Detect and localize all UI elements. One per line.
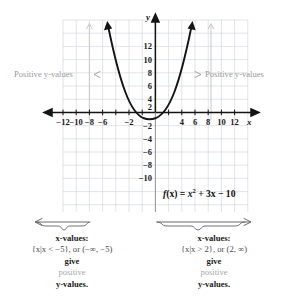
- y-tick-label--10: −10: [139, 174, 152, 183]
- annotation-positive-y-right: Positive y-values: [205, 70, 264, 79]
- curve-left-arrowhead: [104, 21, 112, 30]
- x-tick-label-10: 10: [217, 118, 226, 127]
- equation-rest: + 3x − 10: [196, 188, 236, 199]
- quadratic-sign-chart-figure: −12 −10 −8 −6 −2 4 6 8 10 12 12 10 8 6 4…: [0, 0, 286, 307]
- caption-left-line5: y-values.: [4, 279, 140, 290]
- y-tick-label-6: 6: [148, 82, 152, 91]
- y-tick-label--2: −2: [143, 121, 152, 130]
- annotation-left-text: Positive y-values: [14, 69, 73, 79]
- curve-right-arrowhead: [188, 21, 196, 30]
- function-equation-label: f(x) = x2 + 3x − 10: [163, 188, 235, 199]
- y-tick-label-10: 10: [144, 55, 153, 64]
- y-tick-label-12: 12: [144, 42, 153, 51]
- x-axis-left-arrowhead: [44, 109, 52, 116]
- caption-right-line2: {x|x > 2}, or (2, ∞): [146, 244, 282, 255]
- right-pointer-arrow: [195, 72, 201, 78]
- x-tick-label--8: −8: [85, 118, 94, 127]
- x-tick-label-12: 12: [230, 118, 239, 127]
- caption-left-line2: {x|x < −5}, or (−∞, −5): [4, 244, 140, 255]
- caption-right-line4: positive: [146, 267, 282, 278]
- x-tick-label--12: −12: [56, 118, 69, 127]
- x-axis-right-arrowhead: [251, 109, 259, 116]
- caption-left-line3: give: [4, 256, 140, 267]
- y-tick-label--8: −8: [143, 161, 152, 170]
- x-tick-label-6: 6: [193, 118, 197, 127]
- left-curly-brace: [36, 222, 90, 230]
- y-tick-label-2: 2: [148, 102, 152, 111]
- annotation-right-text: Positive y-values: [205, 69, 264, 79]
- y-tick-label--4: −4: [143, 135, 152, 144]
- x-tick-label--2: −2: [124, 118, 133, 127]
- y-tick-label--6: −6: [143, 148, 152, 157]
- right-curly-brace: [157, 222, 245, 230]
- y-axis-top-arrowhead: [152, 14, 159, 22]
- x-tick-label--6: −6: [98, 118, 107, 127]
- annotation-positive-y-left: Positive y-values: [14, 70, 73, 79]
- caption-left-interval: x-values: {x|x < −5}, or (−∞, −5) give p…: [4, 233, 140, 290]
- equation-eq: =: [177, 188, 187, 199]
- caption-left-line1: x-values:: [4, 233, 140, 244]
- caption-right-line5: y-values.: [146, 279, 282, 290]
- x-tick-label--10: −10: [70, 118, 83, 127]
- caption-right-line3: give: [146, 256, 282, 267]
- caption-right-line1: x-values:: [146, 233, 282, 244]
- left-pointer-arrow: [94, 72, 100, 78]
- interval-braces: [35, 219, 251, 231]
- caption-left-line4: positive: [4, 267, 140, 278]
- x-axis-label: x: [247, 118, 252, 127]
- x-tick-label-4: 4: [180, 118, 184, 127]
- y-tick-label-8: 8: [148, 69, 152, 78]
- equation-arg: (x): [166, 188, 177, 199]
- y-axis-label: y: [146, 13, 150, 22]
- x-tick-label-8: 8: [206, 118, 210, 127]
- caption-right-interval: x-values: {x|x > 2}, or (2, ∞) give posi…: [146, 233, 282, 290]
